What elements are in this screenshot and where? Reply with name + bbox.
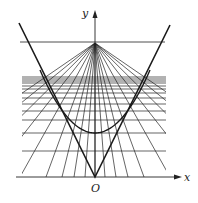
fan-line (0, 43, 95, 177)
y-axis-arrow-icon (93, 10, 98, 18)
fan-line (95, 43, 170, 177)
fan-lines (0, 43, 198, 177)
horizontal-grid-lines (22, 77, 166, 151)
diagram-canvas: y x O (0, 0, 198, 203)
fan-line (0, 43, 95, 177)
fan-line (20, 43, 95, 177)
fan-line (95, 43, 198, 177)
fan-line (0, 43, 95, 177)
y-axis-label: y (81, 7, 89, 20)
x-axis-label: x (184, 171, 191, 184)
origin-label: O (91, 182, 100, 195)
x-axis-arrow-icon (174, 175, 182, 180)
fan-line (0, 43, 95, 177)
